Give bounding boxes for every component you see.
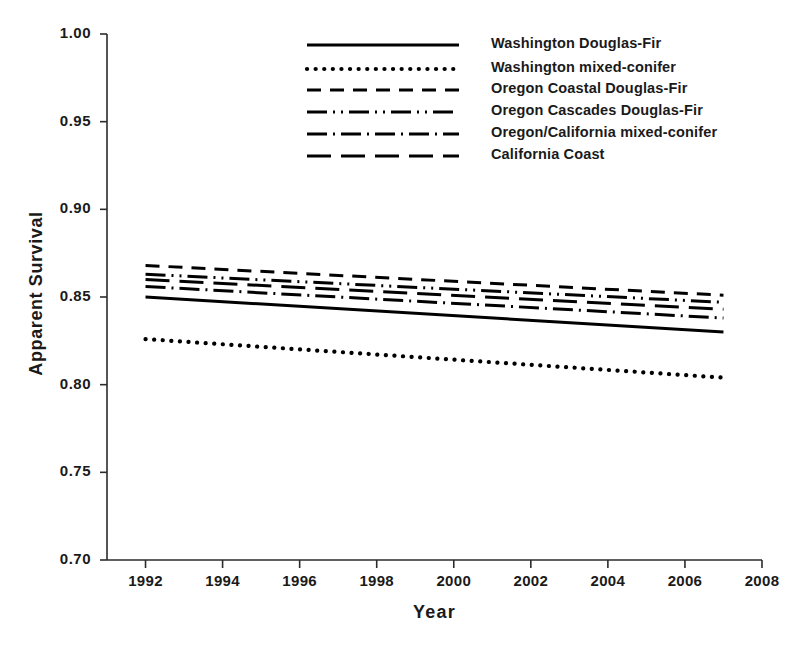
data-series-group bbox=[146, 265, 724, 377]
legend-sample-lines bbox=[307, 45, 459, 156]
x-axis-tick-label: 2006 bbox=[650, 572, 720, 589]
chart-figure: Apparent Survival Year 0.700.750.800.850… bbox=[0, 0, 807, 645]
series-line bbox=[146, 279, 724, 309]
y-axis-tick-label: 0.85 bbox=[29, 287, 91, 304]
legend-entry-label: Oregon Cascades Douglas-Fir bbox=[491, 102, 703, 118]
y-axis-tick-label: 0.75 bbox=[29, 462, 91, 479]
x-axis-tick-label: 2004 bbox=[573, 572, 643, 589]
x-axis-tick-label: 2008 bbox=[727, 572, 797, 589]
x-axis-title: Year bbox=[107, 602, 762, 623]
y-axis-tick-label: 0.70 bbox=[29, 550, 91, 567]
x-axis-tick-label: 1996 bbox=[265, 572, 335, 589]
legend-entry-label: Washington mixed-conifer bbox=[491, 59, 676, 75]
x-axis-tick-label: 1992 bbox=[111, 572, 181, 589]
series-line bbox=[146, 339, 724, 378]
legend-entry-label: California Coast bbox=[491, 146, 605, 162]
chart-plot-area bbox=[0, 0, 807, 645]
y-axis-tick-label: 1.00 bbox=[29, 24, 91, 41]
x-axis-tick-label: 1994 bbox=[188, 572, 258, 589]
y-axis-tick-label: 0.90 bbox=[29, 199, 91, 216]
y-axis-tick-label: 0.95 bbox=[29, 112, 91, 129]
legend-entry-label: Washington Douglas-Fir bbox=[491, 35, 661, 51]
y-axis-tick-label: 0.80 bbox=[29, 375, 91, 392]
x-axis-tick-label: 2002 bbox=[496, 572, 566, 589]
series-line bbox=[146, 274, 724, 302]
x-axis-tick-label: 2000 bbox=[419, 572, 489, 589]
legend-entry-label: Oregon/California mixed-conifer bbox=[491, 124, 717, 140]
x-axis-tick-label: 1998 bbox=[342, 572, 412, 589]
legend-entry-label: Oregon Coastal Douglas-Fir bbox=[491, 80, 687, 96]
